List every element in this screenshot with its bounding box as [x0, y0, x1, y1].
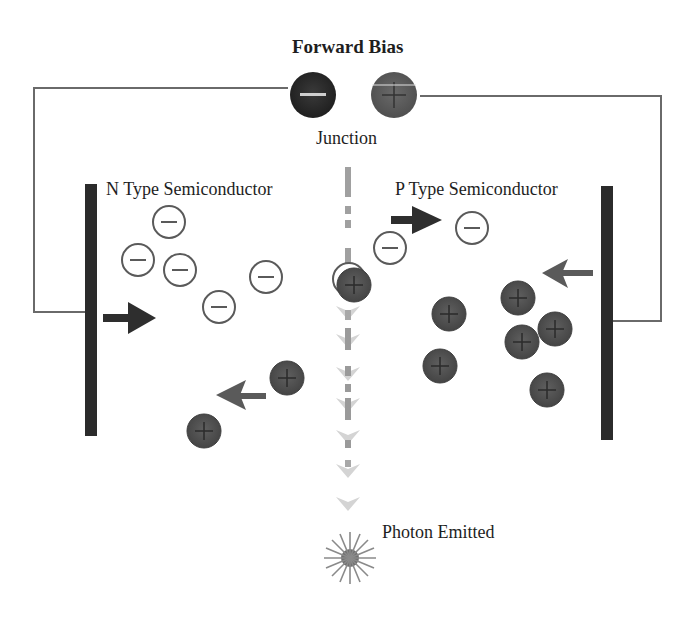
electron-icon [456, 212, 488, 244]
hole-icon [538, 312, 572, 346]
arrow-left-p-side-icon [542, 259, 593, 288]
battery-negative-terminal-icon [290, 72, 336, 118]
electron-icon [153, 206, 185, 238]
holes-p-side [423, 281, 572, 407]
junction-line [345, 167, 351, 264]
hole-icon [423, 349, 457, 383]
recombination-pair-icon [333, 263, 371, 302]
hole-icon [501, 281, 535, 315]
hole-icon [187, 414, 221, 448]
electron-icon [122, 244, 154, 276]
photon-path [336, 306, 360, 511]
hole-icon [432, 297, 466, 331]
electrons-n-side [122, 206, 282, 323]
holes-n-side [187, 361, 304, 448]
electron-icon [250, 261, 282, 293]
hole-icon [270, 361, 304, 395]
hole-icon [505, 325, 539, 359]
arrow-right-p-side-icon [391, 206, 442, 234]
hole-icon [530, 373, 564, 407]
battery-positive-terminal-icon [371, 72, 417, 118]
electron-icon [203, 291, 235, 323]
arrow-left-n-side-icon [216, 380, 266, 410]
photon-burst-icon [324, 532, 376, 584]
diode-diagram [0, 0, 696, 617]
electron-icon [374, 232, 406, 264]
arrow-right-n-side-icon [103, 302, 156, 334]
electron-icon [164, 254, 196, 286]
